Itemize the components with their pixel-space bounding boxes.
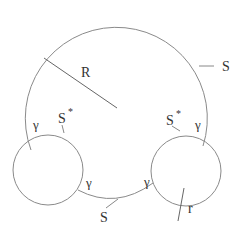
label-r: r — [188, 201, 193, 216]
circles-diagram: R S S S * S * γ γ γ γ r — [0, 0, 240, 232]
label-S-star-right: S — [166, 113, 174, 128]
S-leader-bottom — [106, 199, 118, 208]
label-S-top: S — [222, 59, 230, 74]
right-small-circle — [151, 136, 221, 206]
label-S-star-left: S — [58, 111, 66, 126]
label-gamma-right-top: γ — [194, 117, 201, 132]
label-gamma-left-top: γ — [32, 117, 39, 132]
S-star-leader-left — [62, 125, 64, 133]
large-circle-arc — [25, 27, 207, 150]
left-small-circle — [13, 135, 83, 205]
label-gamma-right-bottom: γ — [143, 174, 150, 189]
label-star-right: * — [176, 108, 181, 119]
label-gamma-left-bottom: γ — [85, 175, 92, 190]
label-R: R — [81, 65, 91, 80]
label-star-left: * — [68, 106, 73, 117]
diagram-canvas: R S S S * S * γ γ γ γ r — [0, 0, 240, 232]
label-S-bottom: S — [100, 210, 108, 225]
radius-r-line — [178, 188, 184, 221]
